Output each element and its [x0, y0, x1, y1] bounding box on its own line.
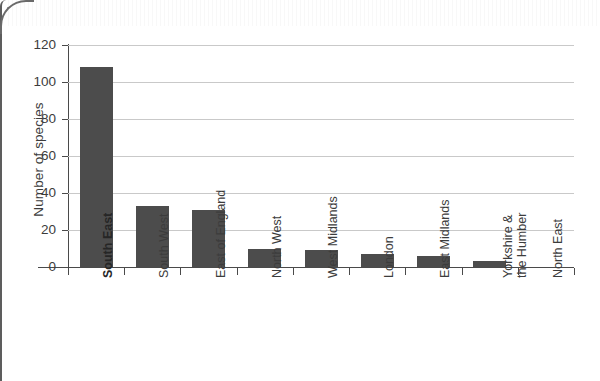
x-tick-mark — [237, 268, 238, 275]
x-axis-label: East of England — [214, 170, 228, 278]
gridline — [68, 82, 574, 83]
y-tick-label: 20 — [22, 223, 56, 237]
x-tick-mark — [574, 268, 575, 275]
plot-area — [68, 45, 574, 267]
x-axis-label: East Midlands — [438, 170, 452, 278]
y-tick-label: 40 — [22, 186, 56, 200]
x-tick-mark — [180, 268, 181, 275]
x-tick-mark — [68, 268, 69, 275]
y-tick-label: 100 — [22, 75, 56, 89]
x-tick-mark — [124, 268, 125, 275]
y-tick-label: 120 — [22, 38, 56, 52]
gridline — [68, 193, 574, 194]
x-tick-mark — [462, 268, 463, 275]
y-tick-label: 80 — [22, 112, 56, 126]
gridline — [68, 156, 574, 157]
gridline — [68, 267, 574, 268]
x-axis-label: North West — [270, 170, 284, 278]
x-axis-label: North East — [551, 170, 565, 278]
bar-chart: Number of species 120100806040200 South … — [0, 0, 600, 381]
gridline — [68, 119, 574, 120]
gridline — [68, 45, 574, 46]
x-axis-label: London — [382, 170, 396, 278]
y-tick-label: 0 — [22, 260, 56, 274]
x-tick-mark — [405, 268, 406, 275]
y-tick-label: 60 — [22, 149, 56, 163]
x-tick-mark — [349, 268, 350, 275]
x-tick-mark — [293, 268, 294, 275]
x-axis-label: South West — [157, 170, 171, 278]
x-axis-label: Yorkshire & the Humber — [501, 170, 529, 278]
x-axis-label: West Midlands — [326, 170, 340, 278]
x-axis-label: South East — [101, 170, 115, 278]
